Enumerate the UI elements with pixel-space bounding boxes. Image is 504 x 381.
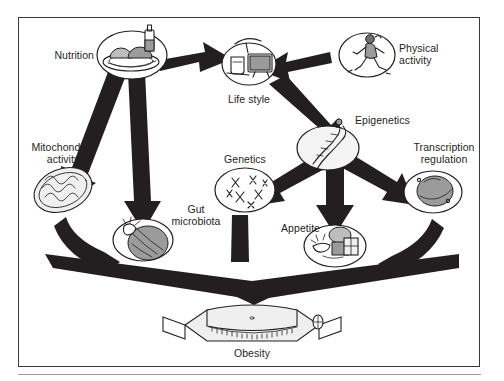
label-physical-activity: Physical activity: [399, 42, 475, 67]
running-person-icon: [339, 33, 395, 77]
label-gut-microbiota: Gut microbiota: [160, 203, 232, 228]
obesity-factors-figure: Nutrition Life style Physical activity E…: [0, 0, 504, 381]
label-epigenetics: Epigenetics: [355, 114, 439, 126]
dna-helix-icon: [297, 119, 359, 170]
label-mitochondrial-activity: Mitochondrial activity: [8, 141, 118, 166]
label-nutrition: Nutrition: [28, 49, 94, 61]
label-appetite: Appetite: [262, 222, 320, 234]
mitochondrion-icon: [27, 159, 98, 220]
label-obesity: Obesity: [212, 347, 292, 359]
plate-of-food-icon: [97, 25, 167, 79]
label-transcription-regulation: Transcription regulation: [398, 141, 490, 166]
cell-nucleus-icon: [404, 171, 462, 213]
label-genetics: Genetics: [205, 153, 285, 165]
bathroom-scale-icon: [163, 305, 341, 341]
label-lifestyle: Life style: [212, 93, 286, 105]
television-icon: [222, 39, 276, 85]
bottom-rule: [18, 374, 481, 375]
